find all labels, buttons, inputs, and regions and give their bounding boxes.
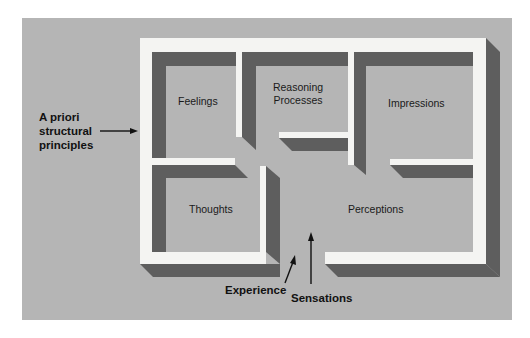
wall-shadows <box>140 38 500 277</box>
sensations-label: Sensations <box>291 291 352 305</box>
room-label-perceptions: Perceptions <box>348 203 403 216</box>
room-label-reasoning: Reasoning Processes <box>268 81 328 107</box>
a-priori-line2: structural <box>39 124 93 138</box>
experience-arrow <box>285 262 293 283</box>
a-priori-line1: A priori <box>39 110 93 124</box>
room-label-reasoning-line1: Reasoning <box>268 81 328 94</box>
room-label-thoughts: Thoughts <box>189 203 233 216</box>
room-label-impressions: Impressions <box>388 97 445 110</box>
a-priori-label: A priori structural principles <box>39 110 93 152</box>
room-label-feelings: Feelings <box>178 95 218 108</box>
room-label-reasoning-line2: Processes <box>268 94 328 107</box>
a-priori-line3: principles <box>39 138 93 152</box>
experience-label: Experience <box>225 283 286 297</box>
